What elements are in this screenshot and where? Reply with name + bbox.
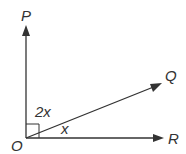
label-o: O <box>11 138 23 153</box>
arrowhead-p-icon <box>22 25 30 36</box>
angle-diagram: P Q R O 2x x <box>0 0 186 154</box>
arrowhead-r-icon <box>153 134 164 142</box>
angle-label-x: x <box>61 121 69 136</box>
arrowhead-q-icon <box>150 83 162 92</box>
label-q: Q <box>165 68 177 83</box>
label-p: P <box>21 8 31 23</box>
angle-label-2x: 2x <box>35 104 51 119</box>
label-r: R <box>168 131 179 146</box>
